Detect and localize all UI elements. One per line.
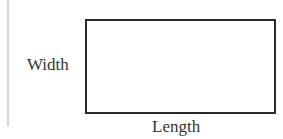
rectangle-shape xyxy=(85,19,276,114)
length-label: Length xyxy=(152,117,200,137)
margin-line xyxy=(7,0,9,126)
width-label: Width xyxy=(27,55,69,75)
